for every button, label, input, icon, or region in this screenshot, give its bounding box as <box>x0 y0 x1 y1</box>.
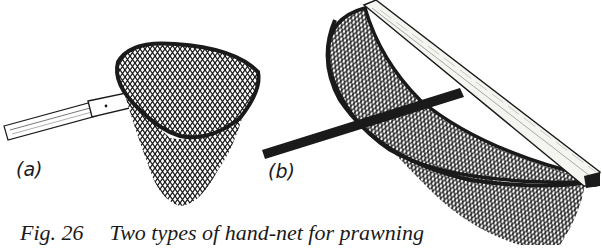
caption-text: Two types of hand-net for prawning <box>110 220 424 245</box>
figure-number: Fig. 26 <box>20 220 84 245</box>
handle-a <box>4 93 130 140</box>
figure-illustration <box>0 0 602 249</box>
panel-label-a: (a) <box>16 158 42 180</box>
panel-label-b: (b) <box>268 160 295 182</box>
hand-net-a <box>4 43 259 206</box>
figure-caption: Fig. 26Two types of hand-net for prawnin… <box>20 220 424 246</box>
push-net-b <box>262 0 600 245</box>
